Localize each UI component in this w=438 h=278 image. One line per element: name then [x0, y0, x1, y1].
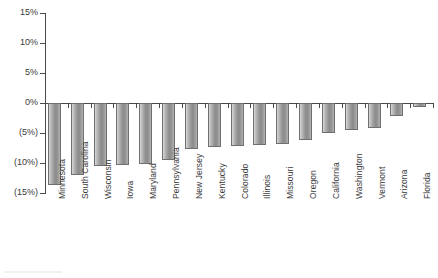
x-tick-label: Pennsylvania	[172, 147, 181, 199]
bar-fill	[322, 103, 335, 133]
x-tick	[182, 103, 183, 108]
x-tick-label: Illinois	[263, 175, 272, 199]
x-tick-label: California	[332, 162, 341, 199]
bar-fill	[94, 103, 107, 166]
bar	[345, 103, 358, 130]
bar-fill	[413, 103, 426, 107]
x-tick	[136, 103, 137, 108]
bar	[231, 103, 244, 146]
bar-fill	[345, 103, 358, 130]
x-tick	[342, 103, 343, 108]
x-tick	[296, 103, 297, 108]
bar-fill	[390, 103, 403, 116]
x-tick-label: New Jersey	[195, 154, 204, 199]
x-tick	[250, 103, 251, 108]
x-tick	[68, 103, 69, 108]
x-tick	[205, 103, 206, 108]
bar	[185, 103, 198, 149]
bar	[94, 103, 107, 166]
bar-fill	[368, 103, 381, 128]
x-tick	[433, 103, 434, 108]
bar	[253, 103, 266, 145]
x-tick	[91, 103, 92, 108]
bar-fill	[253, 103, 266, 145]
x-tick-label: Missouri	[286, 167, 295, 199]
x-tick	[228, 103, 229, 108]
bar	[139, 103, 152, 164]
x-tick-label: Vermont	[378, 167, 387, 199]
bar-fill	[116, 103, 129, 165]
bar-chart: 15%10%5%0%(5%)(10%)(15%) MinnesotaSouth …	[0, 0, 438, 278]
x-tick-label: South Carolina	[81, 141, 90, 199]
x-tick-label: Colorado	[241, 164, 250, 199]
bar	[368, 103, 381, 128]
bar	[116, 103, 129, 165]
x-tick-label: Wisconsin	[104, 159, 113, 199]
x-tick	[113, 103, 114, 108]
x-tick-label: Oregon	[309, 170, 318, 199]
bar	[390, 103, 403, 116]
x-tick-label: Maryland	[149, 163, 158, 199]
bar	[208, 103, 221, 147]
x-tick-label: Washington	[355, 153, 364, 199]
x-tick	[273, 103, 274, 108]
x-tick-label: Arizona	[400, 169, 409, 199]
x-tick-label: Florida	[423, 172, 432, 199]
bar-fill	[299, 103, 312, 140]
bar	[322, 103, 335, 133]
bar-fill	[276, 103, 289, 144]
footer-artifact	[4, 271, 62, 273]
bar-fill	[139, 103, 152, 164]
bar-fill	[231, 103, 244, 146]
x-tick	[387, 103, 388, 108]
x-tick-label: Iowa	[126, 181, 135, 199]
bars-layer	[0, 0, 438, 278]
x-tick	[319, 103, 320, 108]
bar	[299, 103, 312, 140]
x-tick-label: Kentucky	[218, 163, 227, 199]
bar	[276, 103, 289, 144]
bar	[413, 103, 426, 107]
x-tick	[365, 103, 366, 108]
x-tick	[410, 103, 411, 108]
bar-fill	[185, 103, 198, 149]
x-tick-label: Minnesota	[58, 159, 67, 199]
x-tick	[159, 103, 160, 108]
bar-fill	[208, 103, 221, 147]
